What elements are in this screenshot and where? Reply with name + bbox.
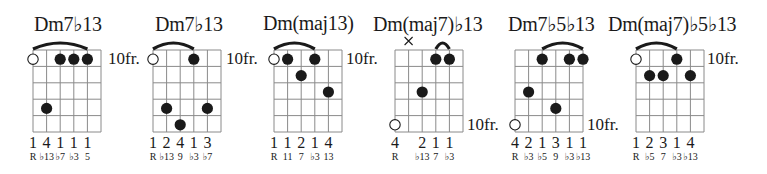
finger-number: 1 bbox=[632, 134, 640, 152]
chord-diagram-6: Dm(maj7)♭5♭13 10fr. 12314 R♭57♭3♭13 bbox=[0, 0, 767, 174]
fret-position-label: 10fr. bbox=[707, 49, 739, 69]
finger-dot-icon bbox=[671, 54, 682, 65]
finger-number: 3 bbox=[659, 134, 667, 152]
finger-number: 2 bbox=[646, 134, 654, 152]
barre-arc bbox=[636, 43, 677, 49]
interval-label: ♭3 bbox=[672, 151, 682, 162]
finger-dot-icon bbox=[685, 70, 696, 81]
finger-number: 1 bbox=[673, 134, 681, 152]
open-root-circle-icon bbox=[631, 54, 641, 64]
interval-label: R bbox=[633, 151, 640, 162]
interval-label: ♭5 bbox=[645, 151, 655, 162]
interval-label: 7 bbox=[661, 151, 666, 162]
finger-dot-icon bbox=[644, 70, 655, 81]
finger-dot-icon bbox=[658, 70, 669, 81]
interval-label: ♭13 bbox=[683, 151, 698, 162]
finger-number: 4 bbox=[686, 134, 694, 152]
